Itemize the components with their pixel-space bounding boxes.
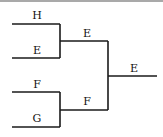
bracket-label-r2-2: F [83, 95, 91, 108]
bracket-label-r1-2: E [33, 44, 41, 57]
bracket-label-final: E [130, 62, 138, 75]
bracket-label-r1-1: H [32, 9, 42, 22]
bracket-label-r1-3: F [33, 78, 41, 91]
bracket-diagram: H E F G E F E [0, 0, 163, 137]
bracket-label-r1-4: G [33, 112, 42, 125]
bracket-label-r2-1: E [83, 27, 91, 40]
